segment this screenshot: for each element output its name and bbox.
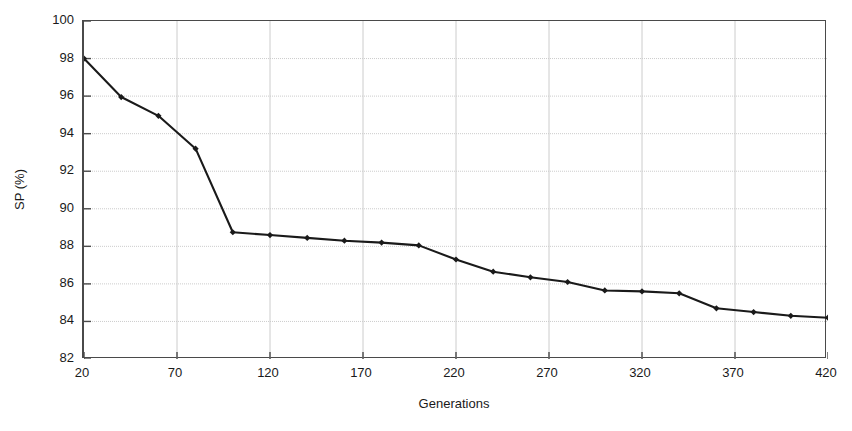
x-tick-label: 120	[238, 366, 298, 379]
data-point-marker	[751, 309, 757, 315]
y-tick-label: 86	[36, 276, 74, 289]
data-point-marker	[527, 274, 533, 280]
data-point-marker	[788, 313, 794, 319]
data-point-marker	[565, 279, 571, 285]
y-tick-label: 94	[36, 126, 74, 139]
data-point-marker	[304, 235, 310, 241]
vertical-gridlines	[177, 21, 735, 359]
x-tick-label: 220	[424, 366, 484, 379]
data-point-marker	[230, 229, 236, 235]
y-tick-label: 84	[36, 313, 74, 326]
x-tick-label: 170	[331, 366, 391, 379]
x-tick-label: 20	[52, 366, 112, 379]
data-point-marker	[267, 232, 273, 238]
data-point-marker	[379, 239, 385, 245]
y-tick-label: 96	[36, 88, 74, 101]
plot-area	[82, 20, 826, 358]
x-axis-tick-marks	[84, 352, 828, 359]
data-point-marker	[825, 315, 828, 321]
x-axis-title-text: Generations	[419, 396, 490, 411]
y-axis-tick-marks	[84, 21, 91, 359]
data-point-marker	[453, 256, 459, 262]
data-point-marker	[341, 238, 347, 244]
x-tick-label: 370	[703, 366, 763, 379]
data-point-marker	[490, 269, 496, 275]
data-point-marker	[639, 288, 645, 294]
x-tick-label: 270	[517, 366, 577, 379]
x-tick-label: 420	[796, 366, 852, 379]
y-tick-label: 90	[36, 201, 74, 214]
x-tick-label: 70	[145, 366, 205, 379]
y-tick-label: 98	[36, 51, 74, 64]
y-axis-title: SP (%)	[0, 0, 38, 378]
y-tick-label: 82	[36, 351, 74, 364]
y-tick-label: 88	[36, 238, 74, 251]
y-axis-title-text: SP (%)	[12, 169, 27, 210]
data-point-marker	[602, 287, 608, 293]
y-tick-label: 92	[36, 163, 74, 176]
data-point-marker	[416, 242, 422, 248]
x-tick-label: 320	[610, 366, 670, 379]
data-point-marker	[713, 305, 719, 311]
line-chart-svg	[84, 21, 828, 359]
y-tick-label: 100	[36, 13, 74, 26]
x-axis-title: Generations	[82, 396, 826, 411]
data-point-marker	[676, 290, 682, 296]
chart-figure: SP (%) 100989694929088868482 20701201702…	[0, 0, 852, 431]
